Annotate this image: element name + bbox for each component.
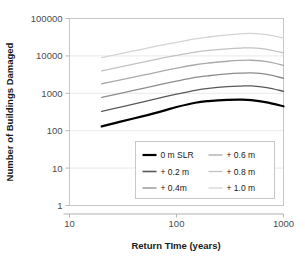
series-line — [102, 33, 284, 57]
legend-label: + 0.2 m — [161, 167, 190, 177]
y-tick-label: 10000 — [36, 50, 62, 61]
series-line — [102, 100, 284, 127]
legend-label: + 0.4m — [161, 183, 187, 193]
y-tick-label: 1000 — [41, 88, 62, 99]
x-tick-label: 1000 — [273, 218, 294, 229]
legend-label: + 0.6 m — [227, 150, 256, 160]
chart-figure: 110100100010000100000 101001000 Number o… — [0, 0, 305, 258]
y-tick-label: 100000 — [31, 13, 63, 24]
y-tick-label: 1 — [57, 200, 62, 211]
y-axis-title: Number of Buildings Damaged — [4, 42, 15, 181]
series-lines — [102, 33, 284, 126]
series-line — [102, 60, 284, 84]
series-line — [102, 86, 284, 112]
legend-label: 0 m SLR — [161, 150, 194, 160]
chart-legend: 0 m SLR+ 0.2 m+ 0.4m+ 0.6 m+ 0.8 m+ 1.0 … — [136, 142, 275, 199]
x-tick-label: 100 — [169, 218, 185, 229]
series-line — [102, 48, 284, 71]
x-tick-label: 10 — [64, 218, 75, 229]
y-tick-label: 10 — [52, 163, 63, 174]
legend-label: + 0.8 m — [227, 167, 256, 177]
y-axis-tick-labels: 110100100010000100000 — [31, 13, 63, 211]
x-axis-tick-labels: 101001000 — [64, 218, 294, 229]
y-tick-label: 100 — [47, 125, 63, 136]
chart-canvas: 110100100010000100000 101001000 Number o… — [0, 0, 305, 258]
x-axis-title: Return TIme (years) — [131, 240, 220, 251]
legend-label: + 1.0 m — [227, 183, 256, 193]
